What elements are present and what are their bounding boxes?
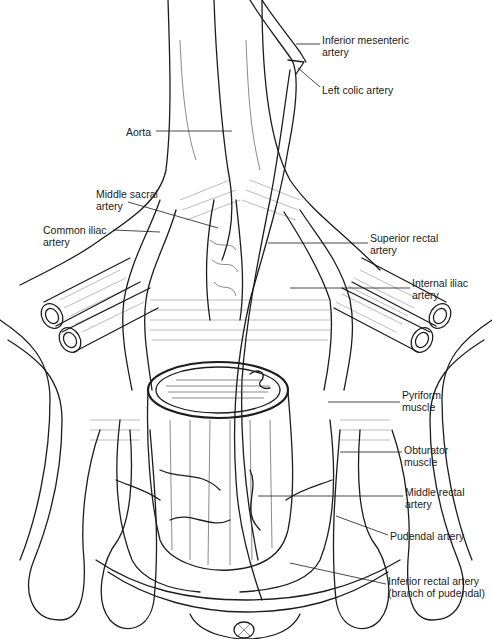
label-pyriform-muscle: Pyriform muscle: [402, 389, 441, 413]
label-middle-rectal-artery: Middle rectal artery: [405, 486, 465, 510]
leader-left-colic-artery: [298, 68, 320, 87]
label-left-colic-artery: Left colic artery: [322, 84, 393, 96]
iliac-vessels: [123, 200, 353, 390]
leader-common-iliac-artery: [113, 230, 160, 232]
label-pudendal-artery: Pudendal artery: [390, 530, 464, 542]
label-middle-sacral-artery: Middle sacral artery: [96, 188, 158, 212]
pelvic-wall-hatching: [60, 180, 420, 440]
rectum-shape: [148, 362, 293, 570]
leader-lines: [113, 44, 410, 584]
label-common-iliac-artery: Common iliac artery: [43, 224, 107, 248]
label-internal-iliac-artery: Internal iliac artery: [412, 277, 468, 301]
anatomy-figure: Inferior mesenteric artery Left colic ar…: [0, 0, 492, 639]
label-superior-rectal-artery: Superior rectal artery: [370, 232, 438, 256]
label-inferior-rectal-artery: Inferior rectal artery (branch of pudend…: [388, 575, 485, 599]
label-aorta: Aorta: [126, 126, 151, 138]
leader-pudendal-artery: [336, 516, 388, 535]
leader-inferior-rectal-artery: [290, 563, 386, 584]
rectal-arteries-illustration: [0, 0, 492, 639]
label-inferior-mesenteric-artery: Inferior mesenteric artery: [322, 34, 409, 58]
label-obturator-muscle: Obturator muscle: [404, 444, 448, 468]
